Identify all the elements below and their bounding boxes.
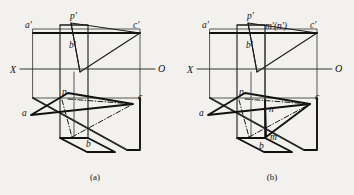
panel-a-triangle-abc [31, 93, 133, 115]
panel-a-label-a: a [22, 108, 27, 118]
panel-b-caption: (b) [267, 172, 278, 182]
panel-b-label-p: p [238, 87, 244, 97]
panel-a-triangle-prime [71, 23, 140, 72]
projection-figure-svg: X O a' b' c' p' a b c p (a) [0, 0, 354, 195]
panel-b-label-mn-prime: m'(n') [265, 21, 287, 32]
panel-b-label-a: a [199, 108, 204, 118]
panel-b-label-m: m [270, 132, 277, 142]
figure-root: X O a' b' c' p' a b c p (a) [0, 0, 354, 195]
panel-a-label-p-prime: p' [69, 11, 78, 21]
panel-a-label-b: b [86, 139, 91, 149]
panel-a-label-p: p [61, 87, 67, 97]
panel-a-label-b-prime: b' [69, 40, 77, 50]
panel-b-label-c: c [315, 92, 320, 102]
panel-b: X O a' b' c' p' m'(n') a b c p n m (b) [186, 11, 342, 182]
panel-b-frontal-plane [210, 29, 317, 98]
panel-a-frontal-plane [33, 29, 140, 98]
panel-a-label-o: O [158, 63, 165, 74]
panel-a-caption: (a) [90, 172, 100, 182]
panel-b-label-p-prime: p' [246, 11, 255, 21]
panel-b-label-x: X [186, 64, 194, 75]
panel-b-triangle-abc [208, 93, 310, 115]
panel-b-label-b-prime: b' [246, 40, 254, 50]
panel-b-cutting-plane-foot [237, 138, 292, 152]
panel-b-label-a-prime: a' [202, 20, 210, 30]
panel-a-label-c: c [138, 92, 143, 102]
panel-b-label-b: b [259, 141, 264, 151]
panel-a-label-c-prime: c' [133, 20, 140, 30]
panel-a: X O a' b' c' p' a b c p (a) [9, 11, 165, 182]
panel-a-label-a-prime: a' [25, 20, 33, 30]
panel-a-label-x: X [9, 64, 17, 75]
panel-b-label-c-prime: c' [310, 20, 317, 30]
panel-b-label-o: O [335, 63, 342, 74]
panel-b-label-n: n [269, 104, 274, 114]
